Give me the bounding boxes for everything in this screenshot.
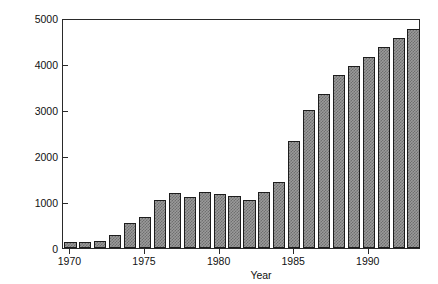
bar xyxy=(169,193,181,248)
bar xyxy=(318,94,330,248)
x-axis-title-text: Year xyxy=(250,269,271,281)
y-axis-tick-label: 5000 xyxy=(14,13,58,25)
bar xyxy=(303,110,315,248)
bar xyxy=(228,196,240,248)
x-axis-tick-mark xyxy=(293,249,294,254)
bar xyxy=(214,194,226,248)
bar xyxy=(154,200,166,248)
bar xyxy=(243,200,255,248)
x-axis-tick-label: 1975 xyxy=(132,255,155,267)
bar xyxy=(407,29,419,248)
bar xyxy=(199,192,211,248)
y-axis-tick-mark xyxy=(62,157,68,158)
y-axis-tick-label: 2000 xyxy=(14,151,58,163)
bar-series xyxy=(63,20,419,248)
bar xyxy=(124,223,136,248)
y-axis-tick-mark xyxy=(62,111,68,112)
y-axis-tick-label: 1000 xyxy=(14,197,58,209)
bar xyxy=(363,57,375,248)
bar xyxy=(64,242,76,248)
y-axis-tick-mark xyxy=(62,203,68,204)
bar xyxy=(258,192,270,248)
bar xyxy=(393,38,405,248)
x-axis-tick-mark xyxy=(69,249,70,254)
plot-area xyxy=(62,19,420,249)
bar xyxy=(79,242,91,248)
y-axis-tick-label: 3000 xyxy=(14,105,58,117)
y-axis-tick-label: 4000 xyxy=(14,59,58,71)
x-axis-tick-mark xyxy=(144,249,145,254)
x-axis-tick-label: 1990 xyxy=(356,255,379,267)
bar xyxy=(333,75,345,248)
bar-chart-figure: Area treated (ha) 010002000300040005000 … xyxy=(0,0,438,284)
y-axis-tick-mark xyxy=(62,65,68,66)
bar xyxy=(139,217,151,248)
bar xyxy=(378,47,390,248)
y-axis-tick-label: 0 xyxy=(14,243,58,255)
bar xyxy=(273,182,285,248)
x-axis-tick-label: 1980 xyxy=(207,255,230,267)
bar xyxy=(184,197,196,248)
x-axis-tick-mark xyxy=(368,249,369,254)
bar xyxy=(288,141,300,248)
y-axis-tick-labels: 010002000300040005000 xyxy=(10,0,58,284)
bar xyxy=(94,241,106,248)
x-axis-tick-label: 1985 xyxy=(282,255,305,267)
x-axis-tick-mark xyxy=(219,249,220,254)
x-axis-tick-label: 1970 xyxy=(58,255,81,267)
x-axis-title: Year xyxy=(0,269,438,281)
bar xyxy=(348,66,360,248)
bar xyxy=(109,235,121,248)
